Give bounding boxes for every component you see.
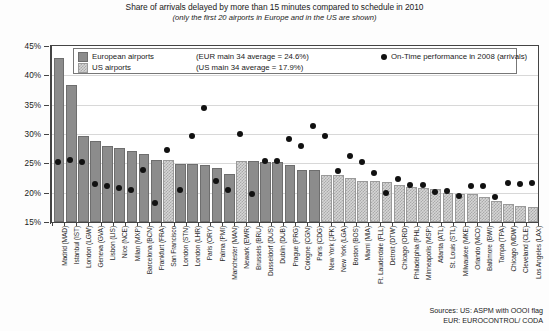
- bar-us: [528, 207, 539, 222]
- ontime-performance-dot: [335, 168, 341, 174]
- x-axis-tick-label: Brussels (BRU): [255, 226, 262, 270]
- legend-label-ontime: On-Time performance in 2008 (arrivals): [391, 52, 527, 61]
- x-axis-tick-label: Boston (BOS): [352, 226, 359, 265]
- x-axis-tick-label: Geneva (GVA): [97, 226, 104, 268]
- sources-note: Sources: US: ASPM with OOOI flag EUR: EU…: [430, 306, 543, 325]
- y-axis-tick-label: 15%: [25, 218, 41, 227]
- ontime-performance-dot: [116, 185, 122, 191]
- ontime-performance-dot: [407, 182, 413, 188]
- bar-us: [503, 204, 514, 222]
- x-axis-tick-label: Atlanta (ATL): [437, 226, 444, 263]
- ontime-performance-dot: [55, 159, 61, 165]
- bar-us: [418, 188, 429, 222]
- legend-row-european: European airports (EUR main 34 average =…: [78, 51, 512, 62]
- ontime-performance-dot: [79, 159, 85, 165]
- x-axis-tick-label: Istanbul (IST): [73, 226, 80, 264]
- sources-line-1: Sources: US: ASPM with OOOI flag: [430, 306, 543, 316]
- bar-us: [406, 187, 417, 222]
- ontime-performance-dot: [189, 133, 195, 139]
- ontime-performance-dot: [225, 187, 231, 193]
- ontime-performance-dot: [456, 193, 462, 199]
- bar-us: [479, 197, 490, 222]
- bar-european: [151, 160, 162, 222]
- x-axis-tick-label: Miami (MIA): [364, 226, 371, 260]
- bar-european: [272, 162, 283, 222]
- x-axis-tick-label: Nice (NCE): [121, 226, 128, 258]
- bar-us: [333, 175, 344, 222]
- bar-us: [345, 178, 356, 222]
- x-axis-tick-label: Los Angeles (LAX): [535, 226, 542, 279]
- x-axis-tick-label: Newark (EWR): [243, 226, 250, 269]
- x-axis-tick-label: Paris (ORY): [206, 226, 213, 260]
- x-axis-tick-label: New York (JFK): [328, 226, 335, 270]
- x-axis-tick-label: London (LGW): [85, 226, 92, 268]
- chart-subtitle: (only the first 20 airports in Europe an…: [0, 13, 549, 23]
- legend-swatch-european-icon: [78, 52, 88, 62]
- chart-title-block: Share of arrivals delayed by more than 1…: [0, 2, 549, 23]
- ontime-performance-dot: [177, 187, 183, 193]
- x-axis-tick-label: Philadelphia (PHL): [413, 226, 420, 279]
- x-axis-tick-label: Manchester (MAN): [231, 226, 238, 280]
- bar-us: [357, 181, 368, 222]
- legend-average-us: (US main 34 average = 17.9%): [196, 63, 381, 72]
- bar-us: [236, 161, 247, 222]
- ontime-performance-dot: [92, 181, 98, 187]
- bar-european: [200, 165, 211, 222]
- ontime-performance-dot: [444, 188, 450, 194]
- x-axis-tick-label: Cleveland (CLE): [522, 226, 529, 273]
- y-axis-tick-mark: [44, 105, 49, 106]
- x-axis-tick-label: Madrid (MAD): [61, 226, 68, 266]
- y-axis-tick-mark: [44, 222, 49, 223]
- bar-european: [187, 164, 198, 222]
- ontime-performance-dot: [395, 176, 401, 182]
- ontime-performance-dot: [152, 200, 158, 206]
- bar-european: [127, 151, 138, 222]
- x-axis-tick-label: Ft. Lauderdale (FLL): [377, 226, 384, 284]
- x-axis-tick-label: Orlando (MCO): [474, 226, 481, 270]
- x-axis-tick-label: Prague (PRG): [292, 226, 299, 267]
- page-title: Share of arrivals delayed by more than 1…: [0, 2, 549, 13]
- bar-european: [78, 136, 89, 222]
- ontime-performance-dot: [298, 143, 304, 149]
- bar-european: [309, 170, 320, 222]
- ontime-performance-dot: [517, 181, 523, 187]
- y-axis-tick-mark: [44, 46, 49, 47]
- x-axis-tick-label: San Francisco: [170, 226, 177, 267]
- ontime-performance-dot: [322, 133, 328, 139]
- x-axis-tick-label: Cologne (CGN): [304, 226, 311, 270]
- bar-european: [212, 168, 223, 222]
- x-axis-tick-label: Milan (MXP): [134, 226, 141, 261]
- sources-line-2: EUR: EUROCONTROL/ CODA: [430, 316, 543, 326]
- bar-european: [285, 165, 296, 222]
- x-axis-tick-label: Detroit (DTW): [389, 226, 396, 265]
- ontime-performance-dot: [104, 183, 110, 189]
- ontime-performance-dot: [274, 158, 280, 164]
- ontime-performance-dot: [237, 131, 243, 137]
- x-axis-tick-label: Palma (PMI): [219, 226, 226, 262]
- x-axis-tick-label: Milwaukee (MKE): [462, 226, 469, 276]
- ontime-performance-dot: [371, 170, 377, 176]
- legend-label-us: US airports: [92, 63, 196, 72]
- bar-us: [443, 193, 454, 222]
- bar-european: [54, 58, 65, 222]
- ontime-performance-dot: [128, 187, 134, 193]
- y-axis-tick-label: 30%: [25, 130, 41, 139]
- ontime-performance-dot: [492, 194, 498, 200]
- ontime-performance-dot: [420, 182, 426, 188]
- y-axis-tick-label: 20%: [25, 188, 41, 197]
- bar-us: [491, 201, 502, 222]
- chart-legend: European airports (EUR main 34 average =…: [73, 48, 517, 74]
- bar-us: [394, 185, 405, 222]
- y-axis-tick-label: 25%: [25, 159, 41, 168]
- x-axis-tick-label: Frankfurt (FRA): [158, 226, 165, 270]
- bar-us: [321, 175, 332, 222]
- ontime-performance-dot: [310, 123, 316, 129]
- bar-us: [467, 194, 478, 222]
- bar-european: [224, 174, 235, 222]
- x-axis-labels: Madrid (MAD)Istanbul (IST)London (LGW)Ge…: [52, 226, 538, 318]
- bar-european: [139, 154, 150, 222]
- y-axis-tick-label: 40%: [25, 71, 41, 80]
- x-axis-tick-label: Dusseldorf (DUS): [267, 226, 274, 276]
- x-axis-tick-label: London (LHR): [194, 226, 201, 266]
- x-axis-tick-label: London (STN): [182, 226, 189, 266]
